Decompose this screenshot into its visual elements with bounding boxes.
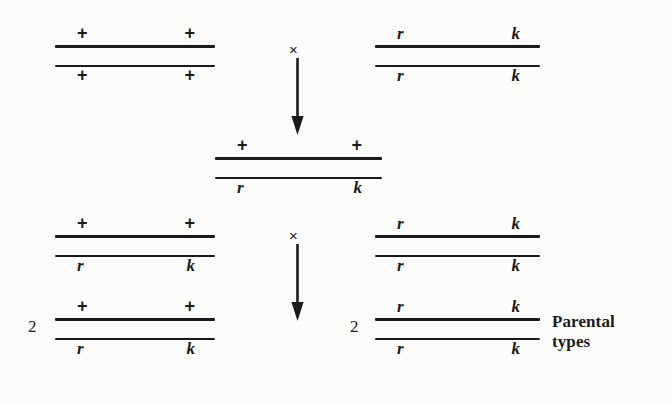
coefficient-offspring-right-lower: 2	[350, 318, 359, 335]
coefficient-offspring-left-lower: 2	[28, 318, 37, 335]
annotation-parental-types: Parental types	[552, 312, 615, 352]
annotation-line-2: types	[552, 332, 615, 352]
annotation-line-1: Parental	[552, 312, 615, 332]
chromatid-line-upper	[375, 45, 540, 48]
chromatid-line-upper	[375, 318, 540, 321]
chromosome-pair-offspring-left-lower: + + r k	[55, 318, 215, 340]
chromosome-pair-heterozygote: + + r k	[215, 157, 382, 179]
chromatid-line-upper	[215, 157, 382, 160]
chromosome-pair-parent-right: r k r k	[375, 45, 540, 67]
chromosome-pair-offspring-right-upper: r k r k	[375, 235, 540, 257]
chromatid-line-upper	[55, 45, 215, 48]
chromosome-pair-parent-left: + + + +	[55, 45, 215, 67]
chromatid-line-upper	[55, 235, 215, 238]
arrow-down-lower	[288, 244, 308, 326]
arrow-down-upper	[288, 58, 308, 140]
cross-symbol-upper: ×	[289, 42, 298, 57]
chromatid-line-upper	[55, 318, 215, 321]
chromatid-line-upper	[375, 235, 540, 238]
genetic-cross-diagram: + + + + r k r k × + +	[0, 0, 672, 403]
cross-symbol-lower: ×	[289, 228, 298, 243]
chromosome-pair-offspring-right-lower: r k r k	[375, 318, 540, 340]
chromosome-pair-offspring-left-upper: + + r k	[55, 235, 215, 257]
